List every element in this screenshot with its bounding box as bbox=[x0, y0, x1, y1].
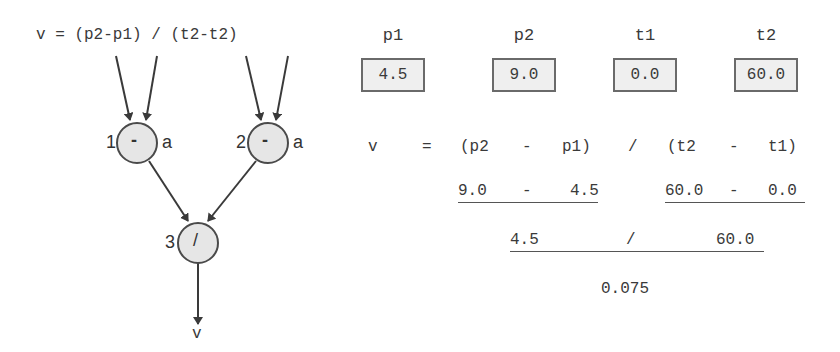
var-label-p2: p2 bbox=[489, 26, 559, 45]
eval-difference-p: 4.5 bbox=[510, 231, 539, 249]
node-2-id: 2 bbox=[236, 132, 246, 153]
arrow-t2a-to-node2 bbox=[246, 56, 261, 120]
formula-text: v = (p2-p1) / (t2-t2) bbox=[36, 26, 238, 44]
eval-p2-value: 9.0 bbox=[458, 182, 487, 200]
eval-equals: = bbox=[422, 138, 432, 156]
eval-denominator-group: 60.0 - 0.0 bbox=[665, 182, 805, 203]
var-value-t1: 0.0 bbox=[631, 66, 660, 84]
arrow-p2-to-node1 bbox=[116, 56, 130, 120]
var-box-t1[interactable]: 0.0 bbox=[613, 58, 677, 92]
expression-graph bbox=[0, 0, 330, 352]
var-label-t2: t2 bbox=[731, 26, 801, 45]
var-value-p1: 4.5 bbox=[379, 66, 408, 84]
eval-minus-1: - bbox=[522, 138, 532, 156]
eval-t2-value: 60.0 bbox=[665, 182, 703, 200]
eval-difference-t: 60.0 bbox=[716, 231, 754, 249]
node-1-operator: - bbox=[131, 130, 137, 151]
node-1-id: 1 bbox=[106, 132, 116, 153]
var-box-t2[interactable]: 60.0 bbox=[734, 58, 798, 92]
eval-divide-2: / bbox=[626, 231, 636, 249]
eval-close-t1: t1) bbox=[768, 138, 797, 156]
eval-divide: / bbox=[628, 138, 638, 156]
eval-lhs: v bbox=[368, 138, 378, 156]
arrow-node2-to-node3 bbox=[208, 161, 256, 221]
eval-close-p1: p1) bbox=[562, 138, 591, 156]
eval-minus-2: - bbox=[729, 138, 739, 156]
eval-open-t2: (t2 bbox=[667, 138, 696, 156]
arrow-t2b-to-node2 bbox=[276, 56, 288, 120]
arrow-p1-to-node1 bbox=[146, 56, 157, 120]
eval-t1-value: 0.0 bbox=[768, 182, 797, 200]
output-label: v bbox=[192, 325, 202, 343]
node-3-operator: / bbox=[193, 230, 198, 251]
eval-numerator-group: 9.0 - 4.5 bbox=[458, 182, 598, 203]
node-2 bbox=[248, 123, 288, 163]
eval-result: 0.075 bbox=[601, 280, 649, 298]
node-2-annotation: a bbox=[293, 132, 303, 153]
node-2-operator: - bbox=[262, 130, 268, 151]
eval-quotient-group: 4.5 / 60.0 bbox=[510, 231, 764, 252]
var-box-p1[interactable]: 4.5 bbox=[361, 58, 425, 92]
var-value-p2: 9.0 bbox=[510, 66, 539, 84]
node-1-annotation: a bbox=[162, 132, 172, 153]
var-value-t2: 60.0 bbox=[747, 66, 785, 84]
eval-minus-value-2: - bbox=[729, 182, 739, 200]
var-box-p2[interactable]: 9.0 bbox=[492, 58, 556, 92]
eval-minus-value-1: - bbox=[522, 182, 532, 200]
var-label-t1: t1 bbox=[610, 26, 680, 45]
eval-open-p2: (p2 bbox=[460, 138, 489, 156]
arrow-node1-to-node3 bbox=[149, 161, 188, 221]
eval-p1-value: 4.5 bbox=[570, 182, 599, 200]
node-3-id: 3 bbox=[165, 232, 175, 253]
node-1 bbox=[117, 123, 157, 163]
var-label-p1: p1 bbox=[358, 26, 428, 45]
